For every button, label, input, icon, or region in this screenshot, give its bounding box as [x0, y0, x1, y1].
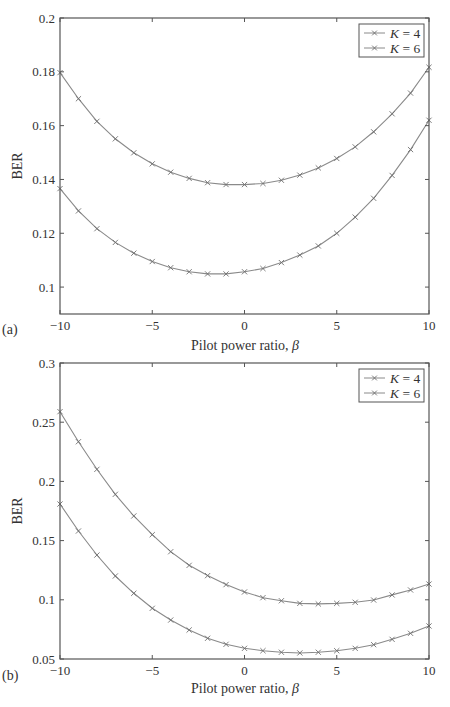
x-marker-icon — [113, 492, 118, 497]
x-marker-icon — [390, 173, 395, 178]
series-layer — [57, 409, 431, 655]
x-tick-label: 5 — [334, 663, 341, 678]
x-marker-icon — [408, 90, 413, 95]
x-marker-icon — [297, 252, 302, 257]
figure-canvas: −10−505100.10.120.140.160.180.2 Pilot po… — [0, 0, 450, 707]
chart-panel-a: −10−505100.10.120.140.160.180.2 Pilot po… — [2, 11, 436, 354]
x-marker-icon — [94, 226, 99, 231]
ticks-layer: −10−505100.050.10.150.20.250.3 — [32, 356, 435, 679]
legend: K = 4K = 6 — [359, 24, 424, 57]
series-line — [60, 412, 429, 604]
x-marker-icon — [316, 165, 321, 170]
x-axis-label: Pilot power ratio, β — [191, 338, 299, 353]
x-marker-icon — [223, 582, 228, 587]
x-marker-icon — [150, 532, 155, 537]
beta-symbol: β — [291, 681, 299, 696]
legend-label: K = 6 — [389, 386, 420, 401]
x-marker-icon — [113, 573, 118, 578]
y-tick-label: 0.16 — [32, 118, 55, 133]
x-marker-icon — [131, 513, 136, 518]
x-marker-icon — [205, 573, 210, 578]
chart-panel-b: −10−505100.050.10.150.20.250.3 Pilot pow… — [2, 356, 436, 697]
x-marker-icon — [94, 467, 99, 472]
y-tick-label: 0.2 — [39, 11, 55, 26]
y-axis-label: BER — [10, 497, 25, 525]
legend-label: K = 6 — [389, 41, 420, 56]
x-marker-icon — [316, 243, 321, 248]
figure: −10−505100.10.120.140.160.180.2 Pilot po… — [0, 0, 450, 707]
x-marker-icon — [205, 636, 210, 641]
y-tick-label: 0.2 — [39, 474, 55, 489]
x-marker-icon — [131, 591, 136, 596]
x-tick-label: −5 — [145, 318, 159, 333]
x-marker-icon — [131, 251, 136, 256]
y-tick-label: 0.1 — [39, 280, 55, 295]
series-layer — [57, 65, 431, 277]
y-tick-label: 0.12 — [32, 226, 55, 241]
y-tick-label: 0.05 — [32, 652, 55, 667]
panel-label: (b) — [2, 668, 19, 684]
x-marker-icon — [408, 631, 413, 636]
x-marker-icon — [94, 119, 99, 124]
x-marker-icon — [279, 260, 284, 265]
x-axis-label-text: Pilot power ratio, — [191, 338, 292, 353]
x-tick-label: 10 — [423, 318, 436, 333]
x-marker-icon — [334, 156, 339, 161]
x-marker-icon — [150, 606, 155, 611]
x-axis-label-text: Pilot power ratio, — [191, 681, 292, 696]
y-tick-label: 0.25 — [32, 415, 55, 430]
x-marker-icon — [113, 136, 118, 141]
panel-label: (a) — [2, 322, 18, 338]
x-marker-icon — [353, 215, 358, 220]
x-tick-label: 0 — [241, 663, 248, 678]
x-marker-icon — [390, 111, 395, 116]
x-marker-icon — [408, 147, 413, 152]
y-tick-label: 0.3 — [39, 356, 55, 371]
plot-frame — [60, 363, 429, 659]
y-tick-label: 0.15 — [32, 533, 55, 548]
x-marker-icon — [371, 196, 376, 201]
plot-frame — [60, 18, 429, 314]
x-marker-icon — [113, 240, 118, 245]
x-marker-icon — [334, 231, 339, 236]
y-tick-label: 0.1 — [39, 592, 55, 607]
x-axis-label: Pilot power ratio, β — [191, 681, 299, 696]
x-tick-label: 5 — [334, 318, 341, 333]
x-tick-label: −10 — [50, 318, 70, 333]
x-marker-icon — [168, 617, 173, 622]
x-tick-label: 10 — [423, 663, 436, 678]
x-marker-icon — [150, 161, 155, 166]
series-line — [60, 120, 429, 274]
x-tick-label: −5 — [145, 663, 159, 678]
x-marker-icon — [76, 528, 81, 533]
x-marker-icon — [131, 150, 136, 155]
x-marker-icon — [94, 552, 99, 557]
x-marker-icon — [371, 129, 376, 134]
series-line — [60, 67, 429, 184]
x-marker-icon — [76, 96, 81, 101]
x-marker-icon — [76, 439, 81, 444]
x-tick-label: 0 — [241, 318, 248, 333]
y-tick-label: 0.18 — [32, 64, 55, 79]
beta-symbol: β — [291, 338, 299, 353]
x-marker-icon — [187, 563, 192, 568]
legend: K = 4K = 6 — [359, 369, 424, 402]
legend-label: K = 4 — [389, 371, 420, 386]
x-marker-icon — [187, 627, 192, 632]
x-marker-icon — [76, 208, 81, 213]
x-marker-icon — [168, 549, 173, 554]
x-marker-icon — [353, 144, 358, 149]
legend-label: K = 4 — [389, 26, 420, 41]
y-tick-label: 0.14 — [32, 172, 55, 187]
series-line — [60, 504, 429, 653]
ticks-layer: −10−505100.10.120.140.160.180.2 — [32, 11, 435, 334]
y-axis-label: BER — [10, 152, 25, 180]
x-marker-icon — [168, 170, 173, 175]
